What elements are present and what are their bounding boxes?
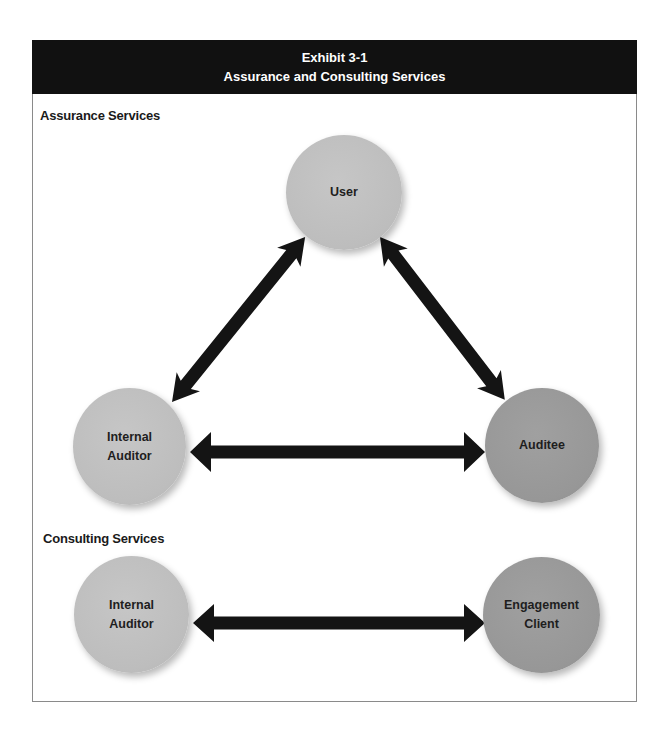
exhibit-number: Exhibit 3-1 xyxy=(32,48,637,67)
node-auditee-label: Auditee xyxy=(519,436,565,455)
node-label-line-1: Internal xyxy=(109,596,154,615)
exhibit-header: Exhibit 3-1 Assurance and Consulting Ser… xyxy=(32,40,637,94)
node-internal-auditor-consulting: Internal Auditor xyxy=(74,556,189,673)
node-label-line-2: Auditor xyxy=(109,615,154,634)
node-engagement-client: Engagement Client xyxy=(483,557,600,673)
node-label-line-1: Internal xyxy=(107,428,152,447)
node-internal-auditor-assurance: Internal Auditor xyxy=(73,388,186,505)
node-label-line-1: Engagement xyxy=(504,596,579,615)
node-label-line-2: Client xyxy=(504,615,579,634)
node-auditee: Auditee xyxy=(485,388,599,503)
consulting-section-label: Consulting Services xyxy=(43,531,164,546)
exhibit-title: Assurance and Consulting Services xyxy=(32,67,637,86)
node-user: User xyxy=(286,135,402,250)
assurance-section-label: Assurance Services xyxy=(40,108,160,123)
node-user-label: User xyxy=(330,183,358,202)
node-label-line-2: Auditor xyxy=(107,447,152,466)
